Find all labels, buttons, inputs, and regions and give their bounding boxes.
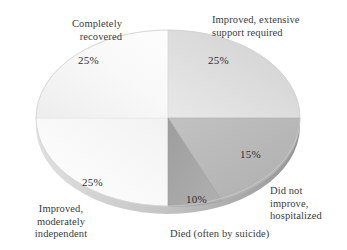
pie-label-died-by-suicide: Died (often by suicide) — [170, 228, 340, 241]
pie-slice-improved-moderately-independent — [36, 118, 168, 206]
pie-label-improved-extensive-support: Improved, extensive support required — [212, 14, 342, 39]
pie-value-improved-extensive-support: 25% — [208, 54, 229, 66]
pie-label-did-not-improve-hospitalized: Did not improve, hospitalized — [270, 185, 346, 223]
pie-value-completely-recovered: 25% — [78, 54, 99, 66]
pie-slices — [36, 30, 300, 206]
pie-slice-improved-extensive-support — [168, 30, 300, 118]
pie-value-died-by-suicide: 10% — [186, 193, 207, 205]
pie-slice-completely-recovered — [36, 30, 168, 118]
pie-value-improved-moderately-independent: 25% — [82, 176, 103, 188]
pie-label-completely-recovered: Completely recovered — [14, 18, 122, 43]
pie-label-improved-moderately-independent: Improved, moderately independent — [6, 203, 116, 241]
pie-chart-figure: 25% 25% 15% 10% 25% Completely recovered… — [0, 0, 347, 250]
pie-value-did-not-improve-hospitalized: 15% — [240, 148, 261, 160]
